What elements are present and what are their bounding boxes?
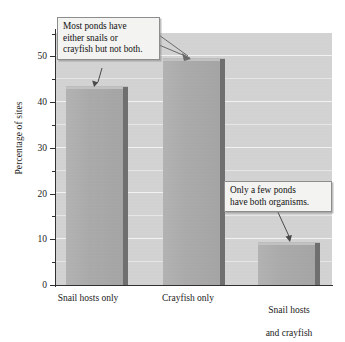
callout-line-2: have both organisms. (230, 197, 326, 209)
y-tick-label-10: 10 (38, 234, 48, 244)
callout-only-a-few-ponds: Only a few ponds have both organisms. (224, 181, 332, 212)
tick-major-20 (50, 194, 56, 195)
y-tick-label-0: 0 (42, 280, 47, 290)
bar-snail-hosts-only (66, 86, 128, 285)
y-tick-label-50: 50 (38, 51, 48, 61)
x-category-label-snail-hosts-only: Snail hosts only (28, 293, 148, 305)
y-tick-label-40: 40 (38, 97, 48, 107)
tick-major-40 (50, 102, 56, 103)
bar-side-shadow (123, 87, 128, 285)
callout-most-ponds: Most ponds have either snails or crayfis… (57, 17, 160, 60)
tick-major-10 (50, 239, 56, 240)
callout-line-1: Only a few ponds (230, 185, 326, 197)
x-category-label-crayfish-only: Crayfish only (134, 293, 242, 305)
tick-minor-5 (52, 262, 56, 263)
bar-face (66, 87, 128, 285)
tick-minor-25 (52, 171, 56, 172)
callout-line-2: either snails or (63, 33, 154, 45)
callout-line-1: Most ponds have (63, 21, 154, 33)
callout-line-3: crayfish but not both. (63, 44, 154, 56)
x-category-label-line2: and crayfish (239, 328, 339, 340)
tick-major-30 (50, 148, 56, 149)
x-category-label-line1: Snail hosts (239, 305, 339, 317)
y-axis-ticks: 50 40 30 20 10 0 (0, 0, 56, 323)
y-tick-label-30: 30 (38, 143, 48, 153)
tick-minor-15 (52, 216, 56, 217)
x-axis-line (55, 285, 333, 286)
tick-minor-35 (52, 125, 56, 126)
bar-crayfish-only (163, 58, 225, 285)
callout-leader-line-2 (256, 208, 326, 250)
tick-major-0 (50, 285, 56, 286)
x-category-label-snail-hosts-and-crayfish: Snail hosts and crayfish (239, 293, 339, 342)
bar-face (163, 59, 225, 285)
bar-side-shadow (220, 59, 225, 285)
y-tick-label-20: 20 (38, 189, 48, 199)
